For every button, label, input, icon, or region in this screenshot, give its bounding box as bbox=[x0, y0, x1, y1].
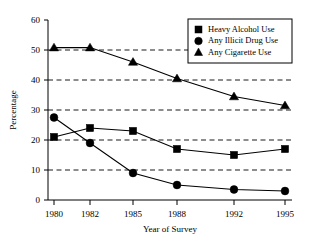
y-tick-label-40: 40 bbox=[31, 75, 41, 85]
square-data-point bbox=[173, 145, 180, 152]
square-data-point bbox=[230, 151, 237, 158]
circle-marker-icon bbox=[195, 37, 203, 45]
x-tick-label-1988: 1988 bbox=[168, 209, 187, 219]
triangle-data-point bbox=[172, 74, 181, 82]
y-tick-marks bbox=[44, 20, 48, 200]
x-tick-label-1985: 1985 bbox=[124, 209, 143, 219]
circle-data-point bbox=[129, 169, 137, 177]
square-data-point bbox=[86, 124, 93, 131]
y-tick-label-30: 30 bbox=[31, 105, 41, 115]
y-tick-labels: 0 10 20 30 40 50 60 bbox=[31, 15, 41, 205]
series-heavy-alcohol-use bbox=[50, 124, 288, 158]
y-tick-label-50: 50 bbox=[31, 45, 41, 55]
legend-label-1: Any Illicit Drug Use bbox=[208, 35, 278, 45]
square-marker-icon bbox=[195, 26, 202, 33]
x-axis-title: Year of Survey bbox=[143, 224, 198, 234]
circle-data-point bbox=[86, 139, 94, 147]
y-axis-title: Percentage bbox=[8, 90, 18, 129]
series-any-illicit-drug-use bbox=[50, 114, 289, 195]
square-data-point bbox=[129, 127, 136, 134]
y-tick-label-60: 60 bbox=[31, 15, 41, 25]
legend-label-0: Heavy Alcohol Use bbox=[208, 24, 275, 34]
x-tick-label-1995: 1995 bbox=[276, 209, 295, 219]
circle-data-point bbox=[173, 181, 181, 189]
x-tick-labels: 1980 1982 1985 1988 1992 1995 bbox=[45, 209, 295, 219]
y-tick-label-10: 10 bbox=[31, 165, 41, 175]
circle-data-point bbox=[281, 187, 289, 195]
x-tick-marks bbox=[54, 200, 285, 205]
chart-container: 0 10 20 30 40 50 60 1980 1982 1985 1988 … bbox=[0, 0, 312, 244]
x-tick-label-1992: 1992 bbox=[225, 209, 243, 219]
square-data-point bbox=[281, 145, 288, 152]
square-data-point bbox=[50, 133, 57, 140]
y-tick-label-20: 20 bbox=[31, 135, 41, 145]
circle-data-point bbox=[230, 186, 238, 194]
legend: Heavy Alcohol Use Any Illicit Drug Use A… bbox=[188, 19, 292, 63]
legend-label-2: Any Cigarette Use bbox=[208, 47, 271, 57]
line-chart: 0 10 20 30 40 50 60 1980 1982 1985 1988 … bbox=[0, 0, 312, 244]
y-tick-label-0: 0 bbox=[36, 195, 41, 205]
x-tick-label-1982: 1982 bbox=[81, 209, 99, 219]
x-tick-label-1980: 1980 bbox=[45, 209, 64, 219]
series-layer bbox=[49, 43, 289, 195]
circle-data-point bbox=[50, 114, 58, 122]
legend-entry-any-illicit-drug-use: Any Illicit Drug Use bbox=[195, 35, 279, 45]
